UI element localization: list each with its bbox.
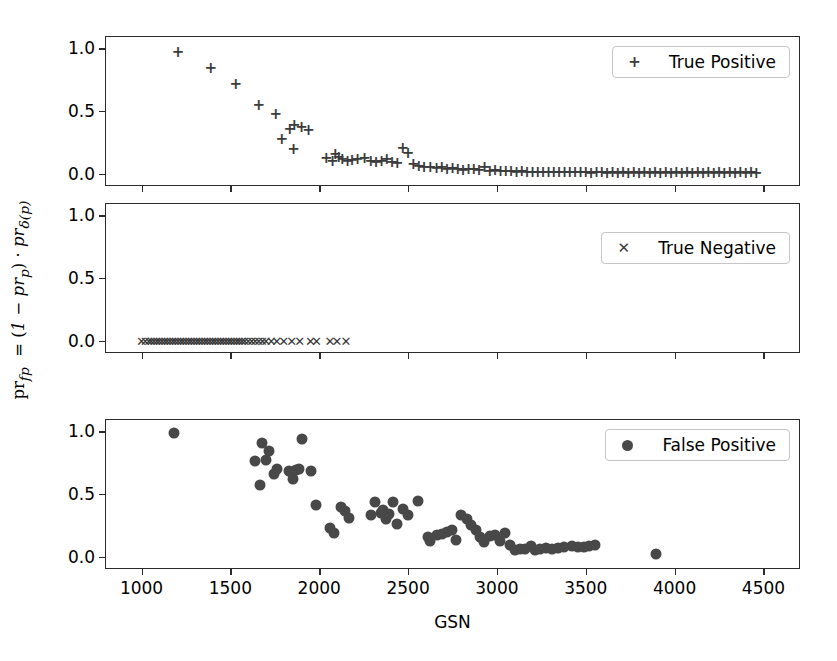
plus-marker: + xyxy=(375,153,388,168)
cross-marker: ✕ xyxy=(136,334,147,347)
plus-marker: + xyxy=(707,165,720,180)
x-tick xyxy=(763,352,764,359)
plus-marker: + xyxy=(739,165,752,180)
plus-marker: + xyxy=(441,161,454,176)
legend-label: False Positive xyxy=(662,435,776,455)
circle-marker xyxy=(370,497,381,508)
x-tick-label: 3500 xyxy=(564,578,607,598)
circle-marker xyxy=(344,512,355,523)
plus-marker: + xyxy=(723,165,736,180)
plus-marker: + xyxy=(424,160,437,175)
circle-marker xyxy=(509,544,520,555)
plus-marker: + xyxy=(622,165,635,180)
circle-marker xyxy=(257,438,268,449)
plus-marker: + xyxy=(205,60,218,75)
legend-true-positive[interactable]: + True Positive xyxy=(612,46,790,78)
cross-marker: ✕ xyxy=(199,334,210,347)
cross-marker: ✕ xyxy=(157,334,168,347)
cross-marker: ✕ xyxy=(231,334,242,347)
true-negative-plot-area: ✕✕✕✕✕✕✕✕✕✕✕✕✕✕✕✕✕✕✕✕✕✕✕✕✕✕✕✕✕✕✕✕✕✕✕✕✕✕✕✕… xyxy=(106,204,799,352)
circle-marker xyxy=(466,519,477,530)
cross-marker: ✕ xyxy=(286,334,297,347)
y-axis-label: prfp = (1 − prp) · prδ(p) xyxy=(0,0,40,600)
plus-marker: + xyxy=(627,165,640,180)
plus-marker: + xyxy=(526,164,539,179)
x-tick xyxy=(319,568,320,575)
cross-marker: ✕ xyxy=(149,334,160,347)
circle-marker xyxy=(250,455,261,466)
cross-marker: ✕ xyxy=(165,334,176,347)
plus-marker: + xyxy=(510,164,523,179)
plus-marker: + xyxy=(446,161,459,176)
plus-marker: + xyxy=(489,162,502,177)
plus-marker: + xyxy=(691,165,704,180)
plus-marker: + xyxy=(269,107,282,122)
x-tick xyxy=(586,352,587,359)
cross-marker: ✕ xyxy=(191,334,202,347)
cross-marker: ✕ xyxy=(181,334,192,347)
circle-marker xyxy=(451,534,462,545)
circle-marker xyxy=(461,514,472,525)
x-tick xyxy=(408,352,409,359)
circle-marker xyxy=(470,525,481,536)
plus-marker: + xyxy=(407,157,420,172)
circle-marker xyxy=(339,505,350,516)
circle-marker xyxy=(268,468,279,479)
x-tick xyxy=(675,352,676,359)
legend-true-negative[interactable]: ✕ True Negative xyxy=(601,232,790,264)
plus-marker: + xyxy=(606,165,619,180)
x-tick-label: 2000 xyxy=(298,578,341,598)
plus-marker: + xyxy=(665,165,678,180)
y-tick-label: 0.5 xyxy=(68,484,95,504)
plus-marker: + xyxy=(574,165,587,180)
y-tick-label: 0.5 xyxy=(68,268,95,288)
circle-marker xyxy=(431,529,442,540)
false-positive-panel: False Positive 0.00.51.01000150020002500… xyxy=(105,419,800,569)
plus-marker: + xyxy=(402,146,415,161)
cross-marker: ✕ xyxy=(228,334,239,347)
plus-marker: + xyxy=(288,118,301,133)
cross-marker: ✕ xyxy=(202,334,213,347)
plus-marker: + xyxy=(229,77,242,92)
legend-false-positive[interactable]: False Positive xyxy=(605,429,790,461)
cross-marker: ✕ xyxy=(332,334,343,347)
plus-marker: + xyxy=(638,165,651,180)
circle-marker xyxy=(446,524,457,535)
x-tick xyxy=(675,185,676,192)
plus-marker: + xyxy=(718,165,731,180)
x-tick xyxy=(763,568,764,575)
circle-marker xyxy=(559,542,570,553)
cross-marker: ✕ xyxy=(154,334,165,347)
y-tick-label: 0.0 xyxy=(68,164,95,184)
x-tick xyxy=(230,185,231,192)
y-tick-label: 0.5 xyxy=(68,101,95,121)
circle-marker xyxy=(375,508,386,519)
plus-marker: + xyxy=(542,165,555,180)
x-tick xyxy=(408,568,409,575)
circle-marker xyxy=(387,497,398,508)
cross-marker: ✕ xyxy=(183,334,194,347)
circle-marker xyxy=(479,537,490,548)
plus-marker: + xyxy=(396,141,409,156)
plus-marker: + xyxy=(468,162,481,177)
circle-marker xyxy=(297,434,308,445)
y-tick xyxy=(99,215,106,216)
cross-marker: ✕ xyxy=(239,334,250,347)
plus-marker: + xyxy=(601,165,614,180)
circle-marker xyxy=(525,541,536,552)
circle-marker-icon xyxy=(622,440,633,451)
plus-marker: + xyxy=(484,163,497,178)
circle-marker xyxy=(494,536,505,547)
plus-marker: + xyxy=(326,154,339,169)
y-tick xyxy=(99,278,106,279)
plus-marker: + xyxy=(457,162,470,177)
x-tick xyxy=(497,352,498,359)
cross-marker: ✕ xyxy=(186,334,197,347)
x-tick xyxy=(763,185,764,192)
circle-marker xyxy=(168,427,179,438)
cross-marker: ✕ xyxy=(210,334,221,347)
circle-marker xyxy=(589,540,600,551)
circle-marker xyxy=(505,539,516,550)
plus-marker: + xyxy=(654,165,667,180)
y-tick xyxy=(99,48,106,49)
